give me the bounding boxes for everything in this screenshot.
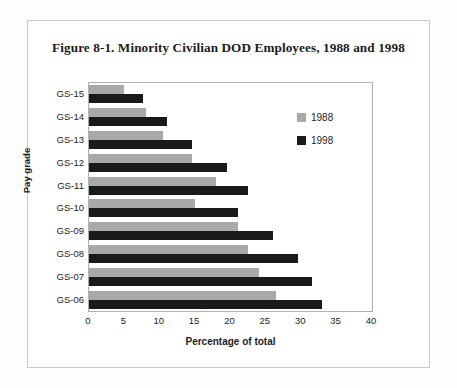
bar-1998-GS-07 [89,277,312,286]
bar-1988-GS-07 [89,268,259,277]
y-tick-GS-07: GS-07 [32,271,84,282]
x-axis-label: Percentage of total [88,336,373,347]
y-tick-GS-06: GS-06 [32,294,84,305]
bar-1998-GS-13 [89,140,192,149]
bar-group [89,220,372,243]
x-tick-10: 10 [144,315,174,326]
bar-1998-GS-10 [89,208,238,217]
y-axis-tick-labels: GS-15GS-14GS-13GS-12GS-11GS-10GS-09GS-08… [28,83,84,311]
x-tick-5: 5 [108,315,138,326]
bar-1998-GS-14 [89,117,167,126]
bar-1998-GS-12 [89,163,227,172]
bar-1988-GS-12 [89,154,192,163]
figure-page: Figure 8-1. Minority Civilian DOD Employ… [0,0,457,388]
bar-1998-GS-08 [89,254,298,263]
y-tick-GS-09: GS-09 [32,225,84,236]
legend-swatch-1998 [297,136,306,145]
x-tick-25: 25 [250,315,280,326]
y-tick-GS-11: GS-11 [32,180,84,191]
legend-item-1998: 1998 [297,135,333,146]
y-tick-GS-10: GS-10 [32,202,84,213]
bar-group [89,265,372,288]
bar-1998-GS-15 [89,94,143,103]
bar-group [89,83,372,106]
bar-1988-GS-08 [89,245,248,254]
x-tick-20: 20 [215,315,245,326]
y-tick-GS-13: GS-13 [32,134,84,145]
chart-legend: 19881998 [297,112,333,158]
bar-group [89,243,372,266]
x-tick-0: 0 [73,315,103,326]
bar-1988-GS-15 [89,85,124,94]
bar-1988-GS-10 [89,199,195,208]
bar-1988-GS-06 [89,291,276,300]
bar-group [89,174,372,197]
bar-1998-GS-06 [89,300,322,309]
bar-1988-GS-14 [89,108,146,117]
figure-title: Figure 8-1. Minority Civilian DOD Employ… [27,40,430,56]
y-axis-label: Pay grade [21,101,32,241]
legend-label-1988: 1988 [311,112,333,123]
y-tick-GS-12: GS-12 [32,157,84,168]
y-tick-GS-14: GS-14 [32,111,84,122]
bar-group [89,197,372,220]
bar-1988-GS-13 [89,131,163,140]
x-tick-35: 35 [321,315,351,326]
legend-item-1988: 1988 [297,112,333,123]
legend-label-1998: 1998 [311,135,333,146]
bar-1988-GS-09 [89,222,238,231]
x-tick-40: 40 [356,315,386,326]
y-tick-GS-15: GS-15 [32,88,84,99]
bar-group [89,288,372,311]
x-tick-15: 15 [179,315,209,326]
bar-1998-GS-09 [89,231,273,240]
x-tick-30: 30 [285,315,315,326]
legend-swatch-1988 [297,113,306,122]
y-tick-GS-08: GS-08 [32,248,84,259]
bar-1998-GS-11 [89,186,248,195]
x-axis-tick-labels: 0510152025303540 [88,315,373,331]
bar-1988-GS-11 [89,177,216,186]
